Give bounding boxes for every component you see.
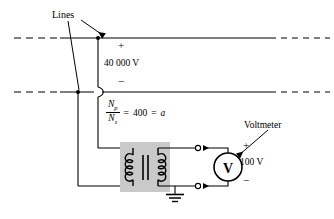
voltmeter-wire-bottom: [203, 181, 228, 186]
circuit-diagram-figure: V Lines + 40 000 V − Voltmeter + 100 V −…: [0, 0, 334, 219]
terminal-bottom[interactable]: [195, 183, 200, 188]
voltmeter-label: Voltmeter: [244, 121, 281, 131]
primary-vertical-wire: [98, 38, 133, 148]
np-subscript: p: [114, 104, 117, 111]
vm-plus-sign: +: [243, 140, 249, 151]
ns-subscript: s: [115, 118, 118, 125]
lines-leader-top: [81, 20, 104, 36]
vm-minus-sign: −: [243, 175, 249, 186]
hv-minus-sign: −: [118, 76, 124, 87]
turns-ratio-value: 400: [133, 108, 147, 118]
terminal-top[interactable]: [195, 145, 200, 150]
voltmeter-symbol-text: V: [223, 161, 233, 176]
equals-sign-1: =: [124, 108, 129, 118]
vm-voltage-label: 100 V: [240, 158, 263, 168]
circuit-schematic-canvas: V: [0, 0, 334, 219]
hv-voltage-label: 40 000 V: [104, 59, 139, 69]
turns-ratio-denominator: Ns: [106, 114, 119, 125]
lines-leader-bottom: [68, 21, 79, 90]
lines-label: Lines: [52, 10, 74, 20]
equals-sign-2: =: [151, 108, 156, 118]
turns-ratio-numerator: Np: [106, 100, 120, 111]
voltmeter-wire-top: [203, 148, 228, 153]
hv-plus-sign: +: [118, 40, 124, 51]
lines-leader-group: [68, 20, 104, 90]
turns-ratio-expression: Np Ns = 400 = a: [106, 100, 165, 126]
turns-ratio-variable: a: [161, 108, 166, 118]
turns-ratio-fraction: Np Ns: [106, 100, 120, 126]
